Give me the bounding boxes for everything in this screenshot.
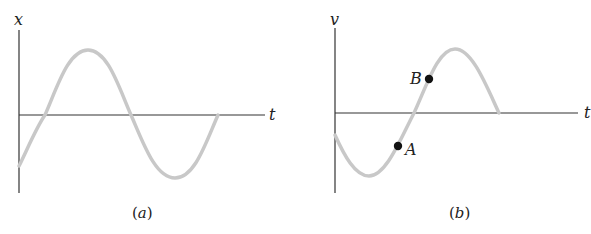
y-axis-label: v [330, 10, 339, 29]
figure: x t (a) A B v t (b) [0, 0, 591, 234]
x-axis-label: t [584, 103, 591, 122]
point-b [425, 75, 433, 83]
y-axis-label: x [14, 10, 23, 29]
panel-b: A B v t (b) [330, 10, 591, 222]
caption-a: (a) [132, 204, 153, 222]
point-a-label: A [403, 140, 417, 159]
position-curve [19, 50, 218, 178]
point-b-label: B [409, 69, 422, 88]
caption-b: (b) [449, 204, 470, 222]
x-axis-label: t [269, 105, 276, 124]
panel-a: x t (a) [14, 10, 276, 222]
point-a [394, 142, 402, 150]
